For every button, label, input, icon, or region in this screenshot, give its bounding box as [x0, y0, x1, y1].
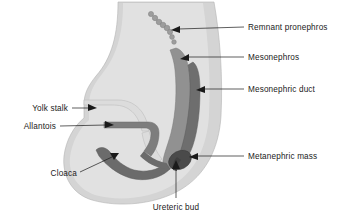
label-ureteric-bud: Ureteric bud — [153, 203, 200, 212]
label-yolk-stalk: Yolk stalk — [32, 104, 69, 113]
embryo-kidney-diagram: Remnant pronephros Mesonephros Mesonephr… — [0, 0, 353, 222]
anatomy-group — [64, 2, 222, 204]
label-mesonephric-duct: Mesonephric duct — [248, 85, 316, 94]
diagram-figure: Remnant pronephros Mesonephros Mesonephr… — [0, 0, 353, 222]
label-mesonephros: Mesonephros — [248, 53, 299, 62]
label-metanephric-mass: Metanephric mass — [248, 152, 317, 161]
label-cloaca: Cloaca — [51, 169, 78, 178]
label-allantois: Allantois — [24, 122, 56, 131]
label-remnant-pronephros: Remnant pronephros — [248, 23, 328, 32]
